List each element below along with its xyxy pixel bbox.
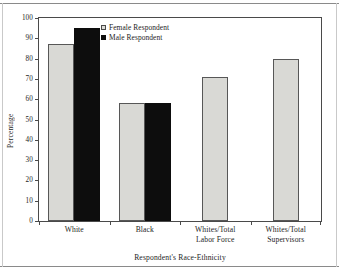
bar [202, 77, 228, 221]
plot-area [39, 18, 321, 221]
y-axis-tick-label: 10 [26, 196, 33, 206]
legend-item-male: Male Respondent [101, 33, 211, 42]
bar [145, 103, 171, 221]
legend-label-male: Male Respondent [109, 33, 162, 42]
y-axis-tick-label: 100 [22, 13, 33, 23]
x-axis-category-label-line: Supervisors [251, 235, 322, 245]
y-axis-ticks: 1009080706050403020100 [0, 4, 39, 223]
y-axis-tick-label: 0 [29, 216, 33, 226]
figure: Percentage 1009080706050403020100 Female… [0, 4, 339, 266]
x-axis-labels: WhiteBlackWhites/TotalLabor ForceWhites/… [38, 225, 322, 251]
y-axis-tick-label: 50 [26, 115, 33, 125]
x-axis-category-label: White [39, 225, 110, 235]
x-axis-category-label: Black [110, 225, 181, 235]
x-axis-category-label-line: Black [110, 225, 181, 235]
x-axis-category-label: Whites/TotalSupervisors [251, 225, 322, 244]
x-axis-title: Respondent's Race-Ethnicity [38, 253, 322, 262]
legend-item-female: Female Respondent [101, 23, 211, 32]
y-axis-tick-label: 80 [26, 54, 33, 64]
page-rule-bottom [0, 266, 339, 267]
bar [273, 59, 299, 221]
legend-swatch-male-icon [101, 35, 106, 40]
bar [48, 44, 74, 221]
y-axis-tick-label: 70 [26, 74, 33, 84]
y-axis-tick-label: 90 [26, 33, 33, 43]
legend-label-female: Female Respondent [109, 23, 169, 32]
x-axis-category-label-line: Whites/Total [180, 225, 251, 235]
y-axis-tick-label: 60 [26, 94, 33, 104]
x-axis-category-label: Whites/TotalLabor Force [180, 225, 251, 244]
x-axis-category-label-line: Labor Force [180, 235, 251, 245]
y-axis-tick-label: 20 [26, 175, 33, 185]
legend: Female Respondent Male Respondent [101, 23, 211, 43]
bar [74, 28, 100, 221]
y-axis-tick-label: 30 [26, 155, 33, 165]
x-axis-category-label-line: Whites/Total [251, 225, 322, 235]
y-axis-tick-label: 40 [26, 135, 33, 145]
x-axis-category-label-line: White [39, 225, 110, 235]
chart-page: Percentage 1009080706050403020100 Female… [0, 0, 339, 271]
bar [119, 103, 145, 221]
legend-swatch-female-icon [101, 25, 106, 30]
